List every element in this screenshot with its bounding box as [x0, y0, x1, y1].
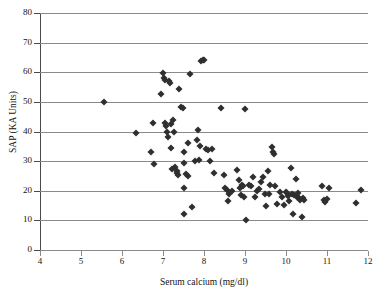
data-point	[352, 199, 359, 206]
x-tick-label: 5	[70, 256, 92, 266]
data-point	[149, 119, 156, 126]
data-point	[180, 148, 187, 155]
data-point	[150, 161, 157, 168]
y-tick-label: 10	[6, 215, 32, 224]
x-tick-label: 7	[152, 256, 174, 266]
y-axis-title: SAP (KA Units)	[8, 57, 18, 187]
data-point	[188, 203, 195, 210]
y-tick-label: 0	[6, 245, 32, 254]
data-point	[196, 156, 203, 163]
data-point	[271, 183, 278, 190]
data-point	[301, 196, 308, 203]
data-point	[252, 193, 259, 200]
data-point	[133, 129, 140, 136]
data-point	[180, 185, 187, 192]
data-point	[171, 128, 178, 135]
x-tick-label: 10	[275, 256, 297, 266]
data-point	[287, 164, 294, 171]
x-tick-label: 8	[193, 256, 215, 266]
data-point	[157, 90, 164, 97]
data-point	[242, 217, 249, 224]
x-axis-title: Serum calcium (mg/dl)	[40, 277, 368, 287]
data-point	[241, 106, 248, 113]
x-tick-label: 9	[234, 256, 256, 266]
data-point	[265, 191, 272, 198]
data-point	[220, 172, 227, 179]
x-tick-label: 6	[111, 256, 133, 266]
y-tick-label: 20	[6, 186, 32, 195]
data-point	[290, 210, 297, 217]
x-tick-label: 11	[316, 256, 338, 266]
data-point	[298, 213, 305, 220]
data-point	[176, 85, 183, 92]
y-tick-label: 80	[6, 8, 32, 17]
x-tick-label: 4	[29, 256, 51, 266]
data-point	[319, 182, 326, 189]
data-point	[147, 148, 154, 155]
data-point	[224, 197, 231, 204]
data-point	[357, 187, 364, 194]
data-point	[185, 172, 192, 179]
data-point	[186, 71, 193, 78]
data-point	[264, 168, 271, 175]
y-tick-label: 70	[6, 38, 32, 47]
data-point	[211, 169, 218, 176]
data-point	[194, 126, 201, 133]
data-point	[250, 174, 257, 181]
data-point	[164, 134, 171, 141]
scatter-chart: 01020304050607080 456789101112 Serum cal…	[0, 0, 379, 299]
data-point	[167, 80, 174, 87]
data-point	[181, 211, 188, 218]
data-point	[241, 193, 248, 200]
data-point	[168, 145, 175, 152]
data-point	[326, 185, 333, 192]
data-point	[184, 140, 191, 147]
data-point	[233, 166, 240, 173]
data-point	[218, 105, 225, 112]
data-point	[207, 158, 214, 165]
x-tick-label: 12	[357, 256, 379, 266]
data-point	[293, 176, 300, 183]
plot-area	[40, 13, 368, 250]
data-point	[100, 98, 107, 105]
data-point	[262, 202, 269, 209]
data-point	[180, 159, 187, 166]
